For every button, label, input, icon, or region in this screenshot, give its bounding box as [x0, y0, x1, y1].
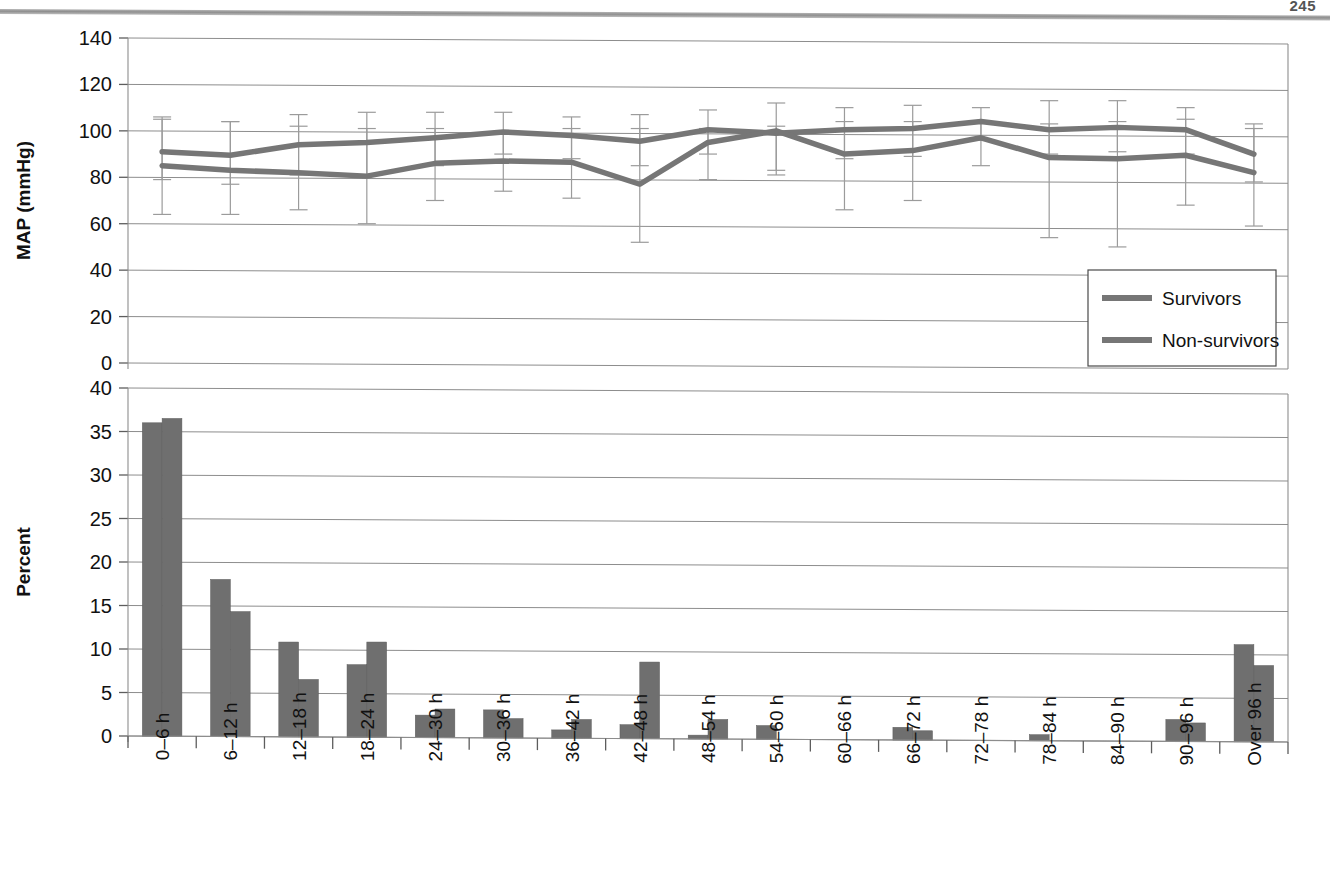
gridline	[128, 475, 1288, 481]
gridline	[128, 562, 1288, 568]
y-tick-label: 40	[90, 259, 112, 281]
gridline	[128, 388, 1288, 394]
gridline	[128, 38, 1288, 44]
x-category-label: 24–30 h	[425, 693, 446, 762]
y-tick-label: 20	[90, 551, 112, 573]
percent-bar-chart: 0510152025303540Percent0–6 h6–12 h12–18 …	[0, 378, 1330, 887]
x-category-label: 12–18 h	[289, 692, 310, 761]
y-tick-label: 80	[90, 166, 112, 188]
y-tick-label: 20	[90, 306, 112, 328]
y-tick-label: 5	[101, 682, 112, 704]
x-category-label: 78–84 h	[1039, 696, 1060, 765]
y-tick-label: 10	[90, 638, 112, 660]
y-tick-label: 15	[90, 595, 112, 617]
x-category-label: 60–66 h	[834, 695, 855, 764]
x-category-label: 90–96 h	[1176, 697, 1197, 766]
page-canvas: 245 020406080100120140MAP (mmHg)Survivor…	[0, 0, 1330, 887]
x-category-label: 36–42 h	[562, 694, 583, 763]
gridline	[128, 84, 1288, 90]
x-category-label: 0–6 h	[152, 713, 173, 761]
x-category-label: Over 96 h	[1244, 682, 1265, 765]
y-tick-label: 100	[79, 120, 112, 142]
y-tick-label: 120	[79, 73, 112, 95]
gridline	[128, 649, 1288, 655]
y-axis-title: Percent	[13, 526, 34, 596]
y-tick-label: 140	[79, 27, 112, 49]
x-category-label: 42–48 h	[630, 694, 651, 763]
y-tick-label: 0	[101, 725, 112, 747]
legend: SurvivorsNon-survivors	[1088, 270, 1279, 366]
y-tick-label: 30	[90, 464, 112, 486]
x-category-label: 66–72 h	[903, 695, 924, 764]
x-category-label: 72–78 h	[971, 696, 992, 765]
gridline	[128, 606, 1288, 612]
x-category-label: 84–90 h	[1107, 696, 1128, 765]
y-tick-label: 0	[101, 352, 112, 374]
gridline	[128, 432, 1288, 438]
x-category-label: 30–36 h	[493, 693, 514, 762]
x-category-label: 54–60 h	[766, 695, 787, 764]
y-axis-title: MAP (mmHg)	[13, 141, 34, 260]
bar	[142, 423, 162, 736]
x-category-label: 48–54 h	[698, 694, 719, 763]
legend-label: Survivors	[1162, 288, 1241, 309]
bar	[162, 418, 182, 736]
map-line-chart: 020406080100120140MAP (mmHg)SurvivorsNon…	[0, 8, 1330, 383]
gridline	[128, 224, 1288, 230]
y-tick-label: 25	[90, 508, 112, 530]
legend-frame	[1088, 270, 1276, 366]
x-category-label: 6–12 h	[220, 702, 241, 760]
x-axis-labels: 0–6 h6–12 h12–18 h18–24 h24–30 h30–36 h3…	[128, 682, 1288, 765]
y-tick-label: 40	[90, 378, 112, 399]
legend-label: Non-survivors	[1162, 330, 1279, 351]
x-category-label: 18–24 h	[357, 693, 378, 762]
y-tick-label: 35	[90, 421, 112, 443]
gridline	[128, 519, 1288, 525]
y-tick-label: 60	[90, 213, 112, 235]
